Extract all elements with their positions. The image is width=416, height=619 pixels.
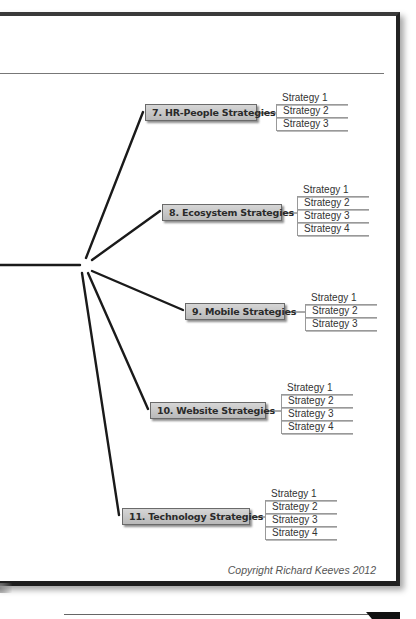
branch-line-11 (82, 273, 119, 515)
branch-line-7 (86, 112, 143, 258)
branch-line-9 (92, 271, 183, 310)
strategy-list-7: Strategy 1Strategy 2Strategy 3 (276, 92, 348, 131)
topic-node-8[interactable]: 8. Ecosystem Strategies (162, 204, 282, 221)
strategy-item[interactable]: Strategy 3 (276, 118, 348, 131)
strategy-item[interactable]: Strategy 2 (305, 305, 377, 318)
strategy-item[interactable]: Strategy 4 (265, 527, 337, 540)
strategy-item[interactable]: Strategy 2 (297, 197, 369, 210)
topic-node-11[interactable]: 11. Technology Strategies (122, 508, 250, 525)
strategy-item[interactable]: Strategy 4 (297, 223, 369, 236)
copyright-text: Copyright Richard Keeves 2012 (228, 564, 376, 576)
strategy-item[interactable]: Strategy 1 (265, 488, 337, 501)
bottom-divider (64, 614, 374, 615)
strategy-list-8: Strategy 1Strategy 2Strategy 3Strategy 4 (297, 184, 369, 236)
strategy-item[interactable]: Strategy 2 (276, 105, 348, 118)
strategy-item[interactable]: Strategy 3 (305, 318, 377, 331)
strategy-list-9: Strategy 1Strategy 2Strategy 3 (305, 292, 377, 331)
strategy-item[interactable]: Strategy 3 (297, 210, 369, 223)
strategy-item[interactable]: Strategy 4 (281, 421, 353, 434)
strategy-item[interactable]: Strategy 1 (297, 184, 369, 197)
strategy-list-11: Strategy 1Strategy 2Strategy 3Strategy 4 (265, 488, 337, 540)
branch-line-10 (88, 273, 148, 409)
strategy-list-10: Strategy 1Strategy 2Strategy 3Strategy 4 (281, 382, 353, 434)
strategy-item[interactable]: Strategy 2 (281, 395, 353, 408)
strategy-item[interactable]: Strategy 2 (265, 501, 337, 514)
strategy-item[interactable]: Strategy 3 (265, 514, 337, 527)
page-edge-shadow (0, 583, 12, 593)
topic-node-9[interactable]: 9. Mobile Strategies (185, 303, 285, 320)
topic-node-7[interactable]: 7. HR-People Strategies (145, 104, 257, 121)
strategy-item[interactable]: Strategy 3 (281, 408, 353, 421)
strategy-item[interactable]: Strategy 1 (305, 292, 377, 305)
strategy-item[interactable]: Strategy 1 (281, 382, 353, 395)
topic-node-10[interactable]: 10. Website Strategies (150, 402, 266, 419)
strategy-item[interactable]: Strategy 1 (276, 92, 348, 105)
page-corner-tab (366, 612, 400, 619)
